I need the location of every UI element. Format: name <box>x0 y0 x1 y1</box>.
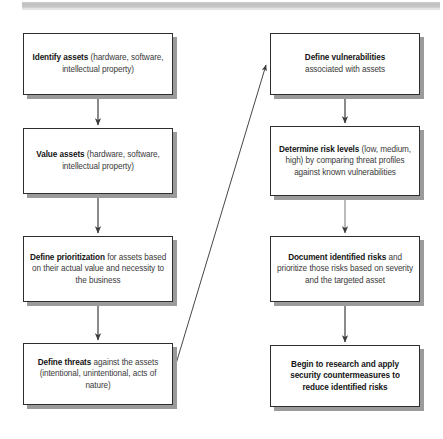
node-define-threats-text: Define threats against the assets (inten… <box>29 357 167 392</box>
node-document-identified-risks[interactable]: Document identified risks and prioritize… <box>270 236 420 302</box>
node-document-identified-risks-bold: Document identified risks <box>288 253 386 262</box>
node-identify-assets[interactable]: Identify assets (hardware, software, int… <box>23 33 173 95</box>
node-value-assets-text: Value assets (hardware, software, intell… <box>29 149 167 172</box>
node-define-vulnerabilities-bold: Define vulnerabilities <box>305 53 385 62</box>
node-identify-assets-text: Identify assets (hardware, software, int… <box>29 52 167 75</box>
edge-threats-to-vulnerabilities <box>172 65 266 377</box>
node-determine-risk-levels-text: Determine risk levels (low, medium, high… <box>276 144 414 179</box>
node-document-identified-risks-text: Document identified risks and prioritize… <box>276 252 414 287</box>
node-determine-risk-levels[interactable]: Determine risk levels (low, medium, high… <box>270 126 420 196</box>
node-define-prioritization-bold: Define prioritization <box>30 253 105 262</box>
node-define-vulnerabilities[interactable]: Define vulnerabilities associated with a… <box>270 33 420 95</box>
node-begin-countermeasures-bold: Begin to research and apply security cou… <box>290 360 400 392</box>
node-value-assets[interactable]: Value assets (hardware, software, intell… <box>23 128 173 194</box>
node-define-prioritization-text: Define prioritization for assets based o… <box>29 252 167 287</box>
node-define-threats[interactable]: Define threats against the assets (inten… <box>23 343 173 405</box>
node-define-vulnerabilities-rest: associated with assets <box>305 65 385 74</box>
node-define-prioritization[interactable]: Define prioritization for assets based o… <box>23 236 173 302</box>
node-begin-countermeasures-text: Begin to research and apply security cou… <box>276 359 414 394</box>
flowchart-page: Identify assets (hardware, software, int… <box>0 0 443 439</box>
node-define-vulnerabilities-text: Define vulnerabilities associated with a… <box>305 52 385 75</box>
node-determine-risk-levels-bold: Determine risk levels <box>279 145 359 154</box>
node-identify-assets-bold: Identify assets <box>33 53 89 62</box>
node-value-assets-bold: Value assets <box>36 150 84 159</box>
node-begin-countermeasures[interactable]: Begin to research and apply security cou… <box>270 345 420 407</box>
node-define-threats-bold: Define threats <box>38 358 91 367</box>
